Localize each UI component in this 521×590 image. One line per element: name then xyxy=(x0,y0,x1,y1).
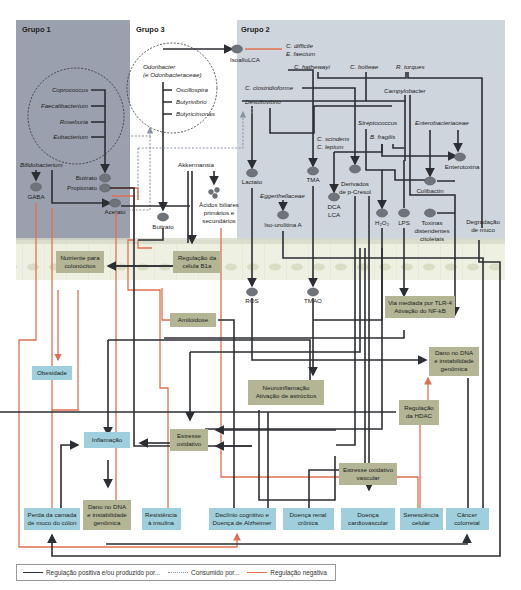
box-doenca-cardiovascular: Doença cardiovascular xyxy=(341,508,395,530)
svg-text:Perda da camada: Perda da camada xyxy=(28,511,77,518)
red-arrow-icon xyxy=(247,572,267,573)
colibactin-label: Colibactin xyxy=(416,187,444,194)
acetato-label: Acetato xyxy=(105,208,127,215)
group-2-title: Grupo 2 xyxy=(241,25,270,34)
legend-positive: Regulação positiva e/ou produzido por... xyxy=(23,569,160,576)
p-cresol-line1: Derivados xyxy=(341,180,369,187)
svg-text:Estresse oxidativo: Estresse oxidativo xyxy=(343,466,394,473)
bacteria-oscillospira: Oscillospira xyxy=(176,86,209,93)
legend-negative: Regulação negativa xyxy=(247,569,327,576)
svg-text:Estresse: Estresse xyxy=(177,432,202,439)
bacteria-butyrivibrio: Butyrivibrio xyxy=(176,98,207,105)
isourolitina-node xyxy=(278,211,289,219)
svg-text:Doença renal: Doença renal xyxy=(290,511,327,518)
svg-text:genômica: genômica xyxy=(441,365,468,372)
solid-arrow-icon xyxy=(23,572,43,573)
toxinas-line3: citoletais xyxy=(420,235,444,242)
acidos-biliares-line2: primários e xyxy=(204,209,235,216)
bacteria-odoribacter: Odoribacter xyxy=(143,63,176,70)
svg-text:Regulação da: Regulação da xyxy=(178,254,217,261)
toxinas-node xyxy=(425,209,436,217)
svg-text:Declínio cognitivo e: Declínio cognitivo e xyxy=(215,511,269,518)
toxinas-line1: Toxinas xyxy=(422,219,443,226)
isourolitina-label: Iso-urolitina A xyxy=(264,221,302,228)
svg-text:Nutriente para: Nutriente para xyxy=(60,254,100,261)
group-1-title: Grupo 1 xyxy=(22,25,51,34)
bacteria-e-faecium: E. faecium xyxy=(286,50,315,57)
svg-text:celular: celular xyxy=(412,519,430,526)
bacteria-campylobacter: Campylobacter xyxy=(384,87,427,94)
box-inflamacao: Inflamação xyxy=(84,432,130,448)
svg-text:Inflamação: Inflamação xyxy=(92,436,123,443)
propionato-label: Propionato xyxy=(67,184,97,191)
bacteria-coprococcus: Coprococcus xyxy=(52,86,88,93)
svg-text:Câncer: Câncer xyxy=(457,511,477,518)
acidos-biliares-line1: Ácidos biliares xyxy=(199,201,239,208)
box-neuroinflamacao: Neuroinflamação Ativação de astrócitos xyxy=(248,380,324,405)
isoallolca-node xyxy=(232,45,243,53)
bacteria-r-torques: R. torques xyxy=(396,63,425,70)
bacteria-eubacterium: Eubacterium xyxy=(53,133,88,140)
svg-text:Senescência: Senescência xyxy=(403,511,439,518)
bacteria-c-bolteae: C. bolteae xyxy=(350,63,379,70)
box-doenca-renal: Doença renal crônica xyxy=(283,508,334,530)
tma-label: TMA xyxy=(306,176,320,183)
svg-text:Regulação: Regulação xyxy=(404,404,434,411)
bacteria-c-hathewayi: C. hathewayi xyxy=(294,63,330,70)
enterotoxina-label: Enterotoxina xyxy=(445,163,480,170)
svg-text:de muco do cólon: de muco do cólon xyxy=(28,519,77,526)
legend-consumed: Consumido por... xyxy=(168,569,239,576)
bacteria-c-scindens: C. scindens xyxy=(317,135,349,142)
propionato-node xyxy=(100,184,111,192)
bacteria-eggerthellaceae: Eggerthellaceae xyxy=(260,192,305,199)
tma-node xyxy=(308,167,319,175)
box-obesidade: Obesidade xyxy=(32,366,72,380)
bacteria-enterobacteriaceae: Enterobacteriaceae xyxy=(415,119,469,126)
svg-text:genômica: genômica xyxy=(94,519,121,526)
dca-label: DCA xyxy=(327,203,341,210)
p-cresol-node xyxy=(350,165,361,173)
box-cancer-colorretal: Câncer colorretal xyxy=(446,508,489,530)
lps-node xyxy=(399,209,410,217)
svg-text:e instabilidade: e instabilidade xyxy=(434,357,474,364)
box-dano-dna-left: Dano no DNA e instabilidade genômica xyxy=(83,500,131,530)
enterotoxina-node xyxy=(455,153,466,161)
h2o2-node xyxy=(377,209,388,217)
box-via-tlr4: Via mediada por TLR-4 Ativação do NF-kB xyxy=(385,296,455,318)
acetato-node xyxy=(110,199,121,207)
bacteria-c-leptum: C. leptum xyxy=(317,143,343,150)
bacteria-roseburia: Roseburia xyxy=(60,118,89,125)
box-resistencia-insulina: Resistência à insulina xyxy=(142,508,181,530)
degradacao-line2: de muco xyxy=(471,226,495,233)
acidos-biliares-line3: secundários xyxy=(202,217,235,224)
bacteria-streptococcus: Streptococcus xyxy=(358,119,397,126)
box-nutriente-colonocitos: Nutriente para colonócitos xyxy=(56,251,104,273)
butirato-g1-label: Butirato xyxy=(76,174,98,181)
box-regulacao-hdac: Regulação da HDAC xyxy=(399,400,439,425)
svg-text:e instabilidade: e instabilidade xyxy=(87,511,127,518)
box-amiloidose: Amiloidose xyxy=(170,313,216,327)
toxinas-line2: distendentes xyxy=(414,227,449,234)
svg-text:vascular: vascular xyxy=(356,474,379,481)
box-estresse-oxidativo-vascular: Estresse oxidativo vascular xyxy=(339,463,397,485)
svg-text:cardiovascular: cardiovascular xyxy=(348,519,388,526)
svg-text:Obesidade: Obesidade xyxy=(37,369,67,376)
svg-text:da HDAC: da HDAC xyxy=(406,412,433,419)
svg-text:Via mediada por TLR-4: Via mediada por TLR-4 xyxy=(388,299,452,306)
svg-text:crônica: crônica xyxy=(298,519,319,526)
svg-text:célula B1a: célula B1a xyxy=(183,262,212,269)
bacteria-faecalibacterium: Faecalibacterium xyxy=(41,102,88,109)
bacteria-b-fragilis: B. fragilis xyxy=(370,133,395,140)
butirato-g1-node xyxy=(100,174,111,182)
p-cresol-line2: de p-Cresol xyxy=(339,188,371,195)
isoallolca-label: IsoalloLCA xyxy=(230,56,261,63)
colibactin-node xyxy=(425,177,436,185)
butirato-g3-node xyxy=(158,213,169,221)
svg-text:colonócitos: colonócitos xyxy=(65,262,96,269)
lactato-node xyxy=(247,169,258,177)
lactato-label: Lactato xyxy=(242,178,263,185)
box-regulacao-celula-b1a: Regulação da célula B1a xyxy=(173,251,221,273)
legend: Regulação positiva e/ou produzido por...… xyxy=(16,564,336,581)
bacteria-butyricimonas: Butyricimonas xyxy=(176,110,215,117)
bacteria-odoribacteraceae: (e Odoribacteraceae) xyxy=(143,71,201,78)
